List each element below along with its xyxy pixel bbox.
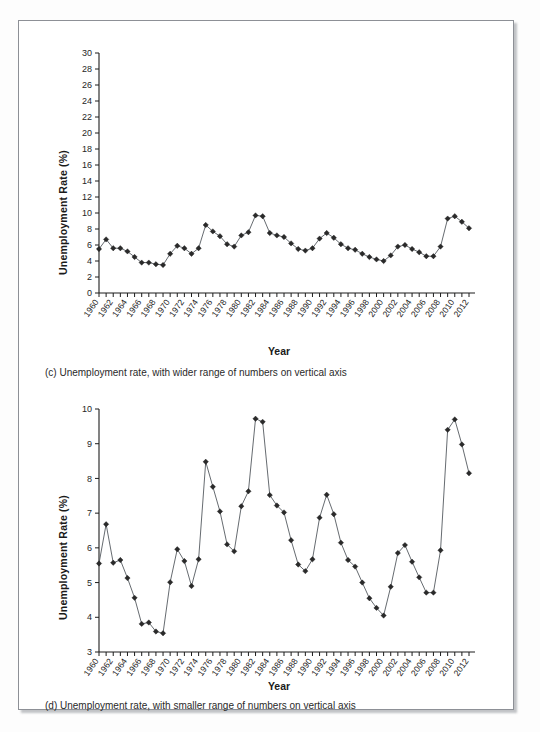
chart-d-plot: 3456789101960196219641966196819701972197… [19,377,515,677]
y-tick-label: 28 [82,64,92,74]
y-tick-label: 20 [82,128,92,138]
chart-d-svg: 3456789101960196219641966196819701972197… [19,377,515,677]
data-point-marker [438,548,443,553]
data-point-marker [324,492,329,497]
chart-d-x-axis-label: Year [31,680,527,692]
data-point-marker [367,254,372,259]
data-point-marker [175,547,180,552]
data-point-marker [445,216,450,221]
y-tick-label: 5 [87,578,92,588]
chart-panel-c: 0246810121416182022242628301960196219641… [19,25,515,377]
chart-d-caption: (d) Unemployment rate, with smaller rang… [45,700,356,711]
data-point-marker [189,583,194,588]
data-point-marker [267,230,272,235]
y-tick-label: 10 [82,404,92,414]
y-tick-label: 6 [87,240,92,250]
data-point-marker [182,558,187,563]
data-point-marker [360,580,365,585]
data-point-marker [402,242,407,247]
y-tick-label: 7 [87,508,92,518]
data-point-marker [231,244,236,249]
data-series-line [99,419,469,634]
y-tick-label: 3 [87,647,92,657]
chart-panel-d: 3456789101960196219641966196819701972197… [19,377,515,707]
data-point-marker [239,233,244,238]
data-point-marker [167,580,172,585]
data-point-marker [118,557,123,562]
data-point-marker [466,471,471,476]
y-tick-label: 4 [87,612,92,622]
y-tick-label: 8 [87,224,92,234]
data-point-marker [153,262,158,267]
data-point-marker [132,595,137,600]
chart-c-x-axis-label: Year [31,345,527,357]
data-point-marker [146,260,151,265]
y-tick-label: 30 [82,48,92,58]
data-point-marker [246,489,251,494]
y-tick-label: 9 [87,439,92,449]
data-point-marker [274,233,279,238]
data-point-marker [338,540,343,545]
y-tick-label: 26 [82,80,92,90]
y-tick-label: 18 [82,144,92,154]
data-point-marker [111,560,116,565]
data-point-marker [459,442,464,447]
data-point-marker [424,254,429,259]
data-point-marker [409,246,414,251]
data-point-marker [388,584,393,589]
chart-c-y-axis-label: Unemployment Rate (%) [57,150,69,275]
data-point-marker [360,251,365,256]
data-point-marker [253,416,258,421]
data-point-marker [260,419,265,424]
data-point-marker [416,575,421,580]
y-tick-label: 22 [82,112,92,122]
data-point-marker [203,459,208,464]
y-tick-label: 16 [82,160,92,170]
y-tick-label: 6 [87,543,92,553]
data-point-marker [345,246,350,251]
data-point-marker [139,621,144,626]
figure-frame: 0246810121416182022242628301960196219641… [18,20,514,710]
y-tick-label: 14 [82,176,92,186]
y-tick-label: 2 [87,272,92,282]
y-tick-label: 24 [82,96,92,106]
data-point-marker [239,504,244,509]
data-point-marker [96,561,101,566]
data-point-marker [267,492,272,497]
data-point-marker [288,538,293,543]
data-series-line [99,215,469,265]
chart-d-y-axis-label: Unemployment Rate (%) [57,495,69,620]
data-point-marker [317,515,322,520]
y-tick-label: 10 [82,208,92,218]
data-point-marker [118,246,123,251]
x-tick-label: 2012 [451,656,470,677]
data-point-marker [160,262,165,267]
data-point-marker [424,590,429,595]
data-point-marker [374,257,379,262]
data-point-marker [409,559,414,564]
figure-page: 0246810121416182022242628301960196219641… [0,0,540,732]
data-point-marker [452,417,457,422]
data-point-marker [217,509,222,514]
data-point-marker [160,631,165,636]
y-tick-label: 8 [87,474,92,484]
data-point-marker [253,213,258,218]
data-point-marker [210,484,215,489]
chart-c-plot: 0246810121416182022242628301960196219641… [19,25,515,340]
data-point-marker [431,590,436,595]
data-point-marker [310,557,315,562]
chart-c-svg: 0246810121416182022242628301960196219641… [19,25,515,340]
data-point-marker [303,248,308,253]
data-point-marker [260,214,265,219]
data-point-marker [196,557,201,562]
y-tick-label: 0 [87,288,92,298]
data-point-marker [246,230,251,235]
data-point-marker [103,522,108,527]
data-point-marker [331,511,336,516]
y-tick-label: 12 [82,192,92,202]
data-point-marker [416,250,421,255]
x-tick-label: 2012 [451,297,470,319]
data-point-marker [125,575,130,580]
data-point-marker [352,247,357,252]
data-point-marker [445,427,450,432]
